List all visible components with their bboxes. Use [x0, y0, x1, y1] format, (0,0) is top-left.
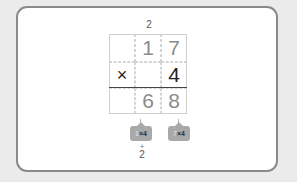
cell-r0-c0 [109, 34, 135, 62]
result-tens-cell: 6 [135, 88, 161, 114]
hint-tag-ones: 7×4 [168, 126, 190, 141]
cell-r1-c1 [135, 62, 161, 88]
multiplication-grid: 1 7 × 4 6 8 [109, 34, 187, 114]
hint-rest: ×4 [139, 130, 147, 137]
cell-r2-c0 [109, 88, 135, 114]
hint-tag-tens: 1×4 [130, 126, 152, 141]
added-carry: 2 [137, 149, 147, 160]
cell-r0-c1: 1 [135, 34, 161, 62]
cell-r1-c2: 4 [161, 62, 187, 88]
result-ones-cell: 8 [161, 88, 187, 114]
answer-rule-line [109, 87, 187, 88]
multiply-sign-cell: × [109, 62, 135, 88]
carry-digit: 2 [143, 19, 155, 30]
cell-r0-c2: 7 [161, 34, 187, 62]
hint-rest: ×4 [177, 130, 185, 137]
